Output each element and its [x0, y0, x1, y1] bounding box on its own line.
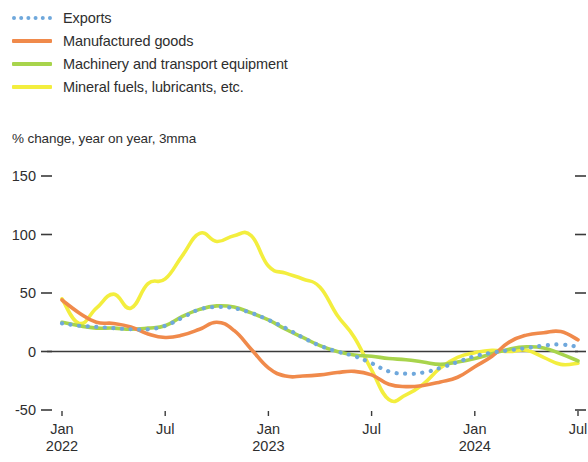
x-axis-tick-group: Jul: [543, 421, 588, 438]
x-axis-tick-year: 2023: [233, 438, 303, 455]
x-axis-tick-group: Jan2023: [233, 421, 303, 455]
plot-area: [0, 0, 588, 462]
x-axis-tick-group: Jan2024: [440, 421, 510, 455]
x-axis-tick-year: 2024: [440, 438, 510, 455]
x-axis-tick-month: Jul: [130, 421, 200, 438]
y-axis-tick-label: 150: [2, 168, 36, 184]
series-line-manufactured-goods: [62, 300, 578, 387]
chart-container: Exports Manufactured goods Machinery and…: [0, 0, 588, 462]
x-axis-tick-month: Jan: [27, 421, 97, 438]
x-axis-tick-month: Jan: [233, 421, 303, 438]
x-axis-tick-month: Jul: [543, 421, 588, 438]
x-axis-tick-group: Jan2022: [27, 421, 97, 455]
y-axis-tick-label: 0: [2, 344, 36, 360]
x-axis-tick-group: Jul: [337, 421, 407, 438]
series-line-exports: [62, 307, 578, 374]
series-line-machinery-and-transport-equipment: [62, 306, 578, 365]
x-axis-tick-group: Jul: [130, 421, 200, 438]
x-axis-tick-month: Jan: [440, 421, 510, 438]
y-axis-tick-label: 50: [2, 285, 36, 301]
x-axis-tick-year: 2022: [27, 438, 97, 455]
y-axis-tick-label: 100: [2, 227, 36, 243]
y-axis-tick-label: -50: [2, 402, 36, 418]
x-axis-tick-month: Jul: [337, 421, 407, 438]
